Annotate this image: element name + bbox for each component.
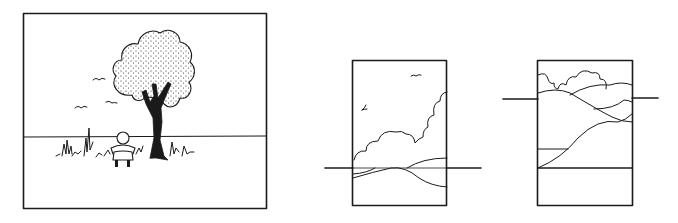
panel-frame bbox=[538, 61, 633, 206]
illustration-canvas bbox=[0, 0, 678, 223]
hill-line bbox=[353, 168, 447, 187]
horizon-line bbox=[24, 136, 266, 137]
hill-line bbox=[570, 83, 632, 95]
panel-frame bbox=[353, 61, 447, 206]
panel-portrait-low-horizon bbox=[325, 61, 481, 206]
hill-line bbox=[594, 100, 632, 109]
child-figure-icon bbox=[111, 132, 135, 167]
bird-icon bbox=[93, 78, 105, 80]
bird-icon bbox=[75, 106, 87, 108]
panel-landscape bbox=[24, 14, 267, 209]
tree-trunk-icon bbox=[142, 82, 171, 160]
bird-icon bbox=[411, 75, 421, 76]
bird-icon bbox=[362, 105, 367, 110]
hill-line bbox=[538, 90, 632, 122]
bird-icon bbox=[106, 101, 117, 103]
panel-portrait-high-horizon bbox=[503, 61, 658, 206]
hill-line bbox=[353, 158, 447, 174]
cloud-icon bbox=[354, 92, 447, 160]
field-line bbox=[538, 114, 632, 168]
cloud-icon bbox=[538, 71, 606, 89]
